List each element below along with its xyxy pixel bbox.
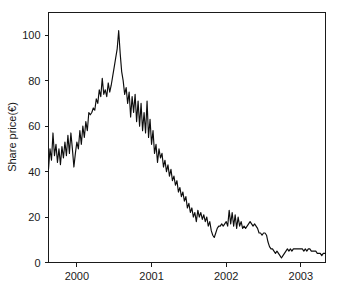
- y-tick-label: 60: [28, 120, 40, 132]
- x-tick-label: 2001: [139, 270, 163, 282]
- x-tick-label: 2000: [65, 270, 89, 282]
- x-tick-label: 2002: [214, 270, 238, 282]
- share-price-chart: 020406080100 2000200120022003 Share pric…: [0, 0, 337, 294]
- y-tick-label: 0: [34, 257, 40, 269]
- x-tick-label: 2003: [289, 270, 313, 282]
- y-tick-label: 20: [28, 211, 40, 223]
- y-axis-title: Share price(€): [6, 102, 18, 172]
- y-tick-label: 40: [28, 166, 40, 178]
- y-tick-label: 80: [28, 75, 40, 87]
- y-tick-label: 100: [22, 29, 40, 41]
- chart-canvas: 020406080100 2000200120022003 Share pric…: [0, 0, 337, 294]
